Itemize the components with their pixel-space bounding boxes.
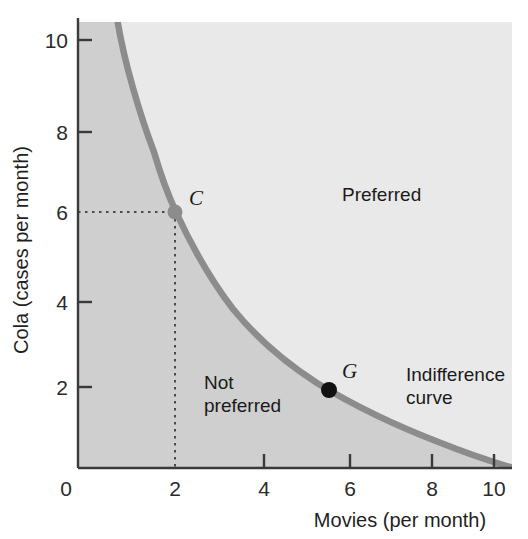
y-tick-label-2: 2: [56, 376, 68, 399]
point-g-marker: [321, 382, 337, 398]
indifference-curve-label-line1: Indifference: [406, 364, 505, 385]
x-tick-label-0: 0: [60, 477, 72, 500]
x-tick-label-8: 8: [426, 477, 438, 500]
not-preferred-region-label-line2: preferred: [204, 395, 281, 416]
point-g-label: G: [342, 359, 357, 383]
y-tick-label-4: 4: [56, 291, 68, 314]
chart-canvas: C G Preferred Not preferred Indifference…: [0, 0, 528, 539]
y-tick-label-8: 8: [56, 121, 68, 144]
preferred-region-label: Preferred: [342, 184, 421, 205]
x-tick-label-4: 4: [258, 477, 270, 500]
indifference-curve-label-line2: curve: [406, 387, 452, 408]
x-tick-label-2: 2: [169, 477, 181, 500]
x-tick-label-10: 10: [482, 477, 505, 500]
point-c-marker: [168, 205, 183, 220]
x-axis-title: Movies (per month): [314, 509, 486, 531]
y-tick-label-6: 6: [56, 201, 68, 224]
point-c-label: C: [189, 186, 204, 210]
indifference-curve-figure: C G Preferred Not preferred Indifference…: [0, 0, 528, 539]
y-axis-title: Cola (cases per month): [10, 146, 32, 354]
x-tick-label-6: 6: [344, 477, 356, 500]
not-preferred-region-label-line1: Not: [204, 372, 234, 393]
y-tick-label-10: 10: [45, 29, 68, 52]
